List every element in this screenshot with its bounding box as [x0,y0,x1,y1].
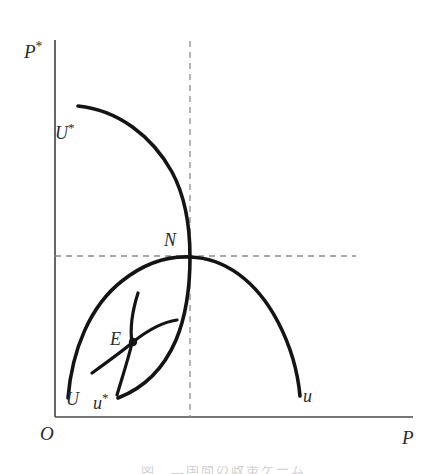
curve-U-u [68,257,300,398]
x-axis-label: P [402,428,414,447]
y-axis-label: P* [24,42,42,61]
curve-label-u: u [303,387,312,405]
figure-caption-clipped: 図 二国間の政策ゲーム [0,466,446,474]
origin-label: O [40,424,54,443]
curve-label-u-star: u* [93,394,108,412]
economics-reaction-curve-figure: P* P O U* U u u* N E 図 二国間の政策ゲーム [0,0,446,474]
curve-label-U-star: U* [55,124,74,142]
point-label-E: E [110,330,121,348]
point-label-N: N [164,231,176,249]
point-E-dot [129,338,137,346]
curve-label-U: U [66,390,79,408]
curve-U-star [78,106,190,398]
curve-U-indifference [92,320,177,373]
